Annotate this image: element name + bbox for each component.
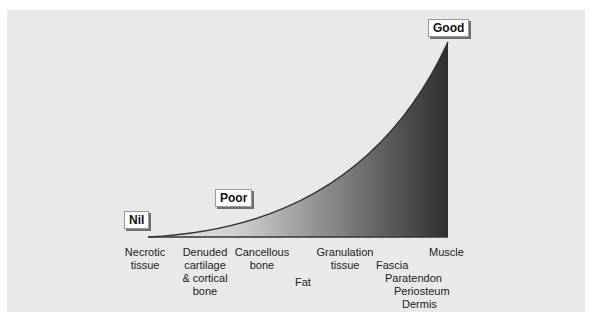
tissue-muscle: Muscle <box>429 246 464 259</box>
tissue-necrotic: Necrotic tissue <box>115 246 175 272</box>
label-line: bone <box>229 259 295 272</box>
label-line: tissue <box>313 259 377 272</box>
level-poor-label: Poor <box>215 189 252 207</box>
tissue-fascia: Fascia <box>376 259 408 272</box>
tissue-fat: Fat <box>295 276 311 289</box>
label-line: Denuded <box>175 246 235 259</box>
level-nil-label: Nil <box>124 211 149 229</box>
label-line: Necrotic <box>115 246 175 259</box>
label-line: bone <box>175 285 235 298</box>
tissue-dermis: Dermis <box>402 298 437 311</box>
level-good-label: Good <box>428 19 469 37</box>
label-line: Cancellous <box>229 246 295 259</box>
vascularity-curve <box>0 0 591 322</box>
label-line: & cortical <box>175 272 235 285</box>
label-line: Granulation <box>313 246 377 259</box>
tissue-paratendon: Paratendon <box>385 272 442 285</box>
tissue-granulation: Granulation tissue <box>313 246 377 272</box>
label-line: tissue <box>115 259 175 272</box>
tissue-cancellous: Cancellous bone <box>229 246 295 272</box>
tissue-periosteum: Periosteum <box>394 285 450 298</box>
label-line: cartilage <box>175 259 235 272</box>
tissue-denuded: Denuded cartilage & cortical bone <box>175 246 235 298</box>
